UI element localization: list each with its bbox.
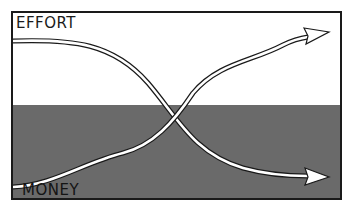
- diagram-panel: EFFORT MONEY: [11, 11, 342, 200]
- effort-arrow-icon: [13, 41, 329, 185]
- money-label: MONEY: [22, 181, 79, 199]
- crossing-arrows: [13, 13, 340, 198]
- money-arrow-icon: [13, 28, 329, 187]
- effort-label: EFFORT: [16, 14, 76, 32]
